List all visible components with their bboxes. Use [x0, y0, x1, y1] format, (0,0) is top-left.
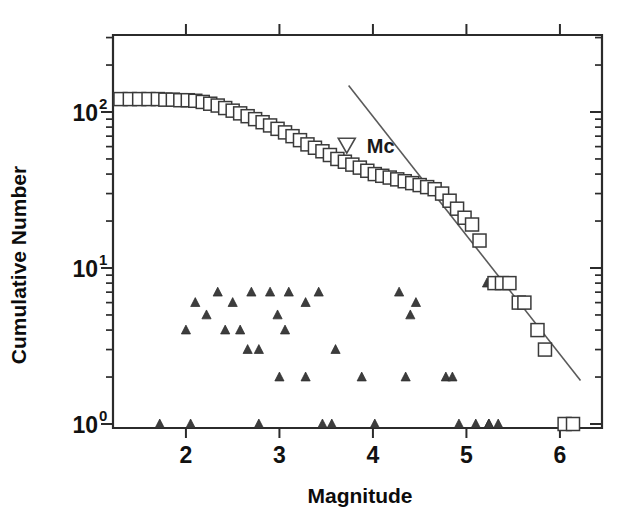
x-axis-tick-labels: 23456 [180, 442, 567, 468]
data-point-triangle [454, 419, 463, 428]
gutenberg-richter-fit-line [349, 85, 581, 380]
data-point-square [567, 418, 580, 431]
x-tick-label: 6 [554, 442, 567, 468]
data-point-triangle [228, 298, 237, 307]
data-point-triangle [370, 419, 379, 428]
mc-label: Mc [367, 135, 395, 157]
data-point-triangle [247, 287, 256, 296]
data-point-triangle [243, 345, 252, 354]
y-tick-label-exponent: 1 [99, 251, 107, 268]
data-point-triangle [181, 325, 190, 334]
y-axis-tick-labels: 100101102 [72, 95, 107, 438]
data-point-triangle [301, 298, 310, 307]
data-point-triangle [213, 287, 222, 296]
annotations-group: Mc [338, 135, 394, 157]
data-point-triangle [331, 345, 340, 354]
chart-canvas: 23456 100101102 Mc Magnitude Cumulative … [0, 0, 632, 526]
data-point-triangle [275, 372, 284, 381]
x-tick-label: 4 [367, 442, 380, 468]
data-point-triangle [265, 287, 274, 296]
data-point-square [531, 324, 544, 337]
figure-container: 23456 100101102 Mc Magnitude Cumulative … [0, 0, 632, 526]
x-axis-ticks [186, 24, 560, 438]
data-point-triangle [301, 372, 310, 381]
data-point-triangle [273, 310, 282, 319]
data-point-triangle [191, 298, 200, 307]
data-point-triangle [236, 325, 245, 334]
data-point-square [466, 218, 479, 231]
data-point-triangle [284, 287, 293, 296]
data-point-triangle [484, 419, 493, 428]
y-tick-label: 10 [72, 412, 98, 438]
data-point-triangle [406, 310, 415, 319]
mc-triangle-icon [338, 138, 355, 153]
y-tick-label: 10 [72, 100, 98, 126]
data-point-triangle [155, 419, 164, 428]
y-tick-label-exponent: 0 [99, 407, 107, 424]
y-tick-label: 10 [72, 256, 98, 282]
data-point-square [503, 277, 516, 290]
data-point-triangle [494, 419, 503, 428]
x-tick-label: 5 [460, 442, 473, 468]
y-tick-label-exponent: 2 [99, 95, 107, 112]
data-point-triangle [202, 310, 211, 319]
data-point-triangle [395, 287, 404, 296]
y-axis-title: Cumulative Number [7, 166, 30, 364]
data-point-triangle [280, 325, 289, 334]
data-point-triangle [448, 372, 457, 381]
data-point-triangle [411, 298, 420, 307]
data-point-triangle [318, 419, 327, 428]
data-point-triangle [186, 419, 195, 428]
data-point-triangle [314, 287, 323, 296]
data-point-triangle [221, 325, 230, 334]
data-point-square [538, 343, 551, 356]
data-point-triangle [357, 372, 366, 381]
data-point-triangle [254, 345, 263, 354]
x-tick-label: 2 [180, 442, 193, 468]
data-point-triangle [327, 419, 336, 428]
data-point-triangle [401, 372, 410, 381]
x-tick-label: 3 [273, 442, 286, 468]
data-point-square [473, 234, 486, 247]
x-axis-title: Magnitude [308, 484, 413, 507]
data-point-square [518, 296, 531, 309]
data-point-triangle [254, 419, 263, 428]
fit-line-group [349, 85, 581, 380]
data-point-triangle [471, 419, 480, 428]
